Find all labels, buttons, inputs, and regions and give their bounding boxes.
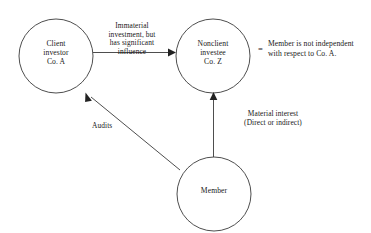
node-label-member: Member [176, 187, 252, 196]
diagram-canvas: Client investor Co. A Nonclient investee… [0, 0, 371, 233]
conclusion-text: Member is not independent with respect t… [268, 39, 371, 59]
node-label-client-investor: Client investor Co. A [18, 40, 94, 67]
edge-label-influence: Immaterial investment, but has significa… [96, 22, 168, 57]
node-label-nonclient-investee: Nonclient investee Co. Z [175, 40, 251, 67]
edge-audits-line [91, 97, 180, 170]
edge-label-audits: Audits [92, 122, 126, 131]
edge-label-material-interest: Material interest (Direct or indirect) [226, 110, 320, 127]
equals-sign: = [258, 44, 263, 54]
